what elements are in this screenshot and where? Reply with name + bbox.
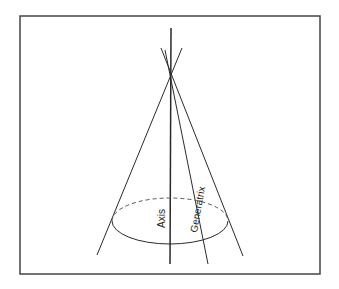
- generatrix-label: Generatrix: [188, 185, 207, 233]
- left-side-line: [97, 48, 182, 255]
- generatrix-line: [165, 50, 208, 264]
- right-side-line: [161, 48, 243, 256]
- cone-diagram: Axis Generatrix: [0, 0, 339, 289]
- axis-label: Axis: [156, 209, 167, 228]
- axis-line: [170, 28, 171, 264]
